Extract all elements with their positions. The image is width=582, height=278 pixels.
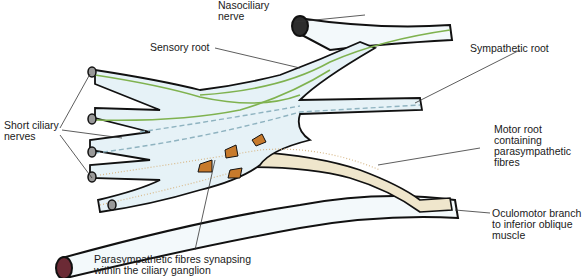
label-sensory-root: Sensory root bbox=[150, 42, 210, 53]
label-motor-root: Motor root containing parasympathetic fi… bbox=[494, 124, 571, 168]
label-parasympathetic-synapse: Parasympathetic fibres synapsing within … bbox=[94, 254, 251, 276]
label-nasociliary-nerve: Nasociliary nerve bbox=[218, 0, 269, 22]
label-short-ciliary-nerves: Short ciliary nerves bbox=[4, 120, 59, 142]
label-sympathetic-root: Sympathetic root bbox=[470, 43, 549, 54]
oculomotor-cut-end bbox=[56, 257, 72, 278]
label-oculomotor-branch: Oculomotor branch to inferior oblique mu… bbox=[492, 208, 581, 241]
